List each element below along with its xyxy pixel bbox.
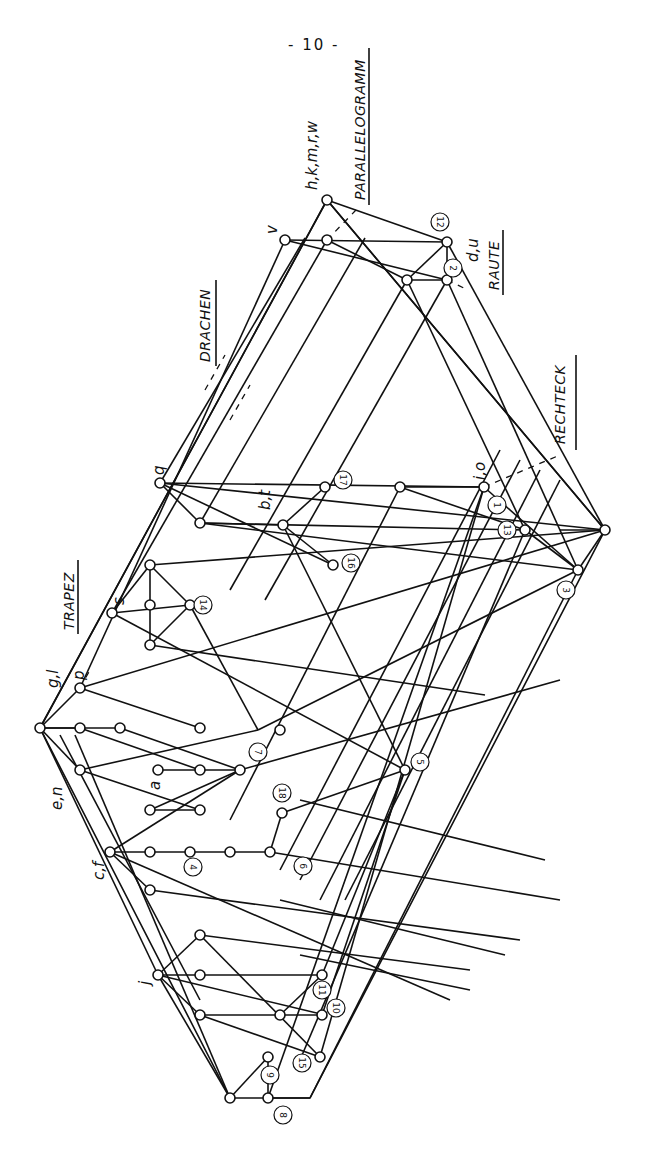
lattice-nodes bbox=[35, 195, 610, 1103]
label-io: i,o bbox=[471, 462, 489, 480]
label-q: q bbox=[150, 465, 168, 475]
svg-text:4: 4 bbox=[188, 864, 198, 870]
svg-text:12: 12 bbox=[435, 216, 445, 227]
circled-number-17: 17 bbox=[334, 471, 352, 489]
svg-text:14: 14 bbox=[198, 599, 208, 611]
circled-number-4: 4 bbox=[184, 858, 202, 876]
svg-text:16: 16 bbox=[346, 557, 356, 569]
circled-number-6: 6 bbox=[294, 857, 312, 875]
svg-text:1: 1 bbox=[492, 502, 502, 508]
circled-number-5: 5 bbox=[411, 753, 429, 771]
svg-text:3: 3 bbox=[561, 587, 571, 593]
lattice-edges bbox=[40, 200, 605, 1098]
circled-number-15: 15 bbox=[293, 1054, 311, 1072]
class-rechteck: RECHTECK bbox=[552, 363, 568, 444]
class-drachen: DRACHEN bbox=[197, 289, 213, 362]
circled-number-9: 9 bbox=[261, 1066, 279, 1084]
circled-number-12: 12 bbox=[431, 213, 449, 231]
svg-text:13: 13 bbox=[502, 524, 512, 535]
circled-number-3: 3 bbox=[557, 581, 575, 599]
circled-number-11: 11 bbox=[313, 981, 331, 999]
label-du: d,u bbox=[464, 238, 482, 262]
svg-text:6: 6 bbox=[298, 863, 308, 869]
svg-text:15: 15 bbox=[297, 1057, 307, 1068]
circled-number-1: 1 bbox=[488, 496, 506, 514]
svg-text:5: 5 bbox=[415, 759, 425, 765]
circled-number-7: 7 bbox=[249, 743, 267, 761]
class-parallelogramm: PARALLELOGRAMM bbox=[352, 59, 368, 200]
svg-text:17: 17 bbox=[338, 474, 348, 485]
label-gl: g,l bbox=[44, 669, 62, 688]
svg-text:10: 10 bbox=[331, 1002, 341, 1014]
svg-text:11: 11 bbox=[317, 984, 327, 995]
svg-text:2: 2 bbox=[448, 265, 458, 271]
label-bt: b,t bbox=[256, 489, 274, 510]
class-raute: RAUTE bbox=[486, 241, 502, 290]
label-en: e,n bbox=[48, 786, 66, 810]
circled-number-16: 16 bbox=[342, 554, 360, 572]
circled-number-2: 2 bbox=[444, 259, 462, 277]
circled-number-14: 14 bbox=[194, 596, 212, 614]
circled-number-8: 8 bbox=[274, 1106, 292, 1124]
lattice-diagram: 12 2 1 13 3 17 16 14 5 7 18 4 6 11 10 15… bbox=[0, 0, 647, 1158]
svg-text:8: 8 bbox=[278, 1112, 288, 1118]
label-cf: c,f bbox=[90, 859, 108, 880]
circled-number-18: 18 bbox=[273, 784, 291, 802]
label-a: a bbox=[146, 781, 164, 790]
class-trapez: TRAPEZ bbox=[61, 572, 77, 630]
label-v: v bbox=[263, 224, 281, 234]
label-j: j bbox=[136, 980, 154, 987]
circled-number-10: 10 bbox=[327, 999, 345, 1017]
circled-number-13: 13 bbox=[498, 521, 516, 539]
svg-text:18: 18 bbox=[277, 787, 287, 799]
svg-text:9: 9 bbox=[265, 1072, 275, 1078]
svg-text:7: 7 bbox=[253, 749, 263, 755]
label-hkmrw: h,k,m,r,w bbox=[303, 120, 321, 190]
label-s: s bbox=[110, 597, 128, 605]
label-p: p bbox=[70, 670, 88, 681]
